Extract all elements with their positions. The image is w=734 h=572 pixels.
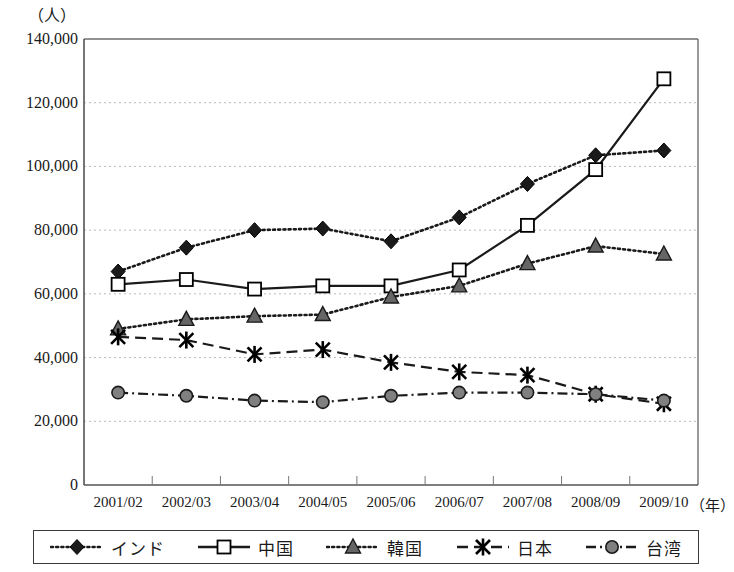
data-point-marker xyxy=(316,279,329,292)
data-point-marker xyxy=(589,163,602,176)
diamond-marker-icon xyxy=(50,537,104,557)
legend-label: 日本 xyxy=(517,535,553,560)
data-point-marker xyxy=(657,143,671,158)
data-point-marker xyxy=(248,394,260,406)
data-point-marker xyxy=(385,390,397,402)
plot-area xyxy=(0,0,734,572)
data-point-marker xyxy=(453,263,466,276)
data-point-marker xyxy=(588,238,603,252)
data-point-marker xyxy=(589,388,601,400)
circle-marker-icon xyxy=(585,537,639,557)
data-point-marker xyxy=(657,72,670,85)
legend-item-韓国[interactable]: 韓国 xyxy=(326,535,423,560)
legend-label: インド xyxy=(111,535,165,560)
legend-label: 台湾 xyxy=(646,535,682,560)
legend-item-台湾[interactable]: 台湾 xyxy=(585,535,682,560)
data-point-marker xyxy=(248,223,262,238)
data-point-marker xyxy=(521,219,534,232)
legend-item-中国[interactable]: 中国 xyxy=(197,535,294,560)
data-point-marker xyxy=(453,386,465,398)
data-point-marker xyxy=(521,386,533,398)
data-point-marker xyxy=(112,278,125,291)
triangle-marker-icon xyxy=(326,537,380,557)
line-chart: （人） （年） 140,000120,000100,00080,00060,00… xyxy=(0,0,734,572)
legend-label: 中国 xyxy=(258,535,294,560)
data-point-marker xyxy=(111,264,125,279)
data-series-markers xyxy=(111,72,672,412)
data-point-marker xyxy=(316,221,330,236)
chart-legend: インド中国韓国日本台湾 xyxy=(33,530,699,564)
data-point-marker xyxy=(112,386,124,398)
square-marker-icon xyxy=(197,537,251,557)
data-point-marker xyxy=(520,176,534,191)
legend-item-日本[interactable]: 日本 xyxy=(456,535,553,560)
legend-label: 韓国 xyxy=(387,535,423,560)
data-point-marker xyxy=(179,240,193,255)
data-point-marker xyxy=(180,390,192,402)
legend-item-インド[interactable]: インド xyxy=(50,535,165,560)
x-axis-ticks xyxy=(152,476,630,485)
gridlines xyxy=(84,103,698,422)
cross-marker-icon xyxy=(456,537,510,557)
series-line-インド xyxy=(118,151,664,272)
data-point-marker xyxy=(589,148,603,163)
data-point-marker xyxy=(317,396,329,408)
data-point-marker xyxy=(248,283,261,296)
data-point-marker xyxy=(658,394,670,406)
series-line-中国 xyxy=(118,79,664,289)
data-point-marker xyxy=(384,234,398,249)
axis-frame xyxy=(84,39,698,485)
data-point-marker xyxy=(452,210,466,225)
data-point-marker xyxy=(180,273,193,286)
